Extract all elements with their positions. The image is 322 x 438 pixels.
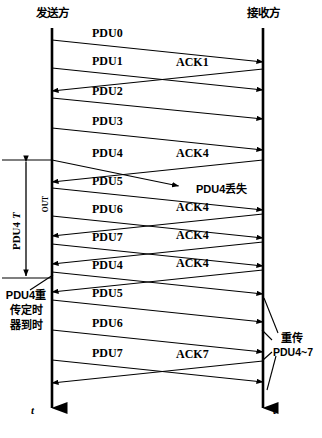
arrow-ack1: [52, 69, 263, 91]
retrans-timer-line-1: PDU4重: [1, 288, 51, 303]
timeout-label-pdu: PDU4: [10, 222, 22, 250]
retrans-timer-line-3: 器到时: [1, 318, 51, 333]
sender-label: 发送方: [36, 4, 69, 20]
leader-retransmit-3: [263, 352, 272, 360]
arrow-pdu6a: [52, 216, 263, 238]
timeout-label-subscript: OUT: [41, 196, 50, 212]
sender-time-axis-label: t: [31, 404, 34, 416]
message-label-pdu3: PDU3: [92, 114, 123, 129]
message-label-pdu7b: PDU7: [92, 346, 123, 361]
message-label-pdu6b: PDU6: [92, 316, 123, 331]
message-label-pdu2: PDU2: [92, 84, 123, 99]
message-label-ack4c: ACK4: [176, 228, 209, 243]
retransmission-timer-label: PDU4重 传定时 器到时: [1, 288, 51, 333]
message-label-pdu5b: PDU5: [92, 286, 123, 301]
leader-retransmit-1: [264, 298, 278, 333]
arrow-pdu2: [52, 98, 263, 119]
protocol-timing-diagram: 发送方 接收方 PDU0PDU1ACK1PDU2PDU3PDU4ACK4PDU5…: [0, 0, 322, 438]
message-label-ack4b: ACK4: [176, 200, 209, 215]
timeout-label-t: T: [10, 212, 22, 219]
arrow-ack4c: [52, 242, 263, 264]
arrow-pdu7a: [52, 244, 263, 266]
message-label-ack1: ACK1: [176, 55, 209, 70]
message-label-pdu1: PDU1: [92, 54, 123, 69]
message-label-pdu4a: PDU4: [92, 146, 123, 161]
arrow-pdu1: [52, 68, 263, 90]
arrow-pdu0: [52, 40, 263, 62]
message-label-ack4d: ACK4: [176, 256, 209, 271]
arrow-ack4d: [52, 270, 263, 292]
retrans-timer-line-2: 传定时: [1, 303, 51, 318]
retransmit-title-label: 重传: [281, 329, 303, 345]
message-label-pdu6a: PDU6: [92, 202, 123, 217]
leader-retransmit-4: [267, 356, 276, 390]
timeout-label: PDU4 T OUT: [0, 213, 51, 233]
receiver-time-axis-label: t: [273, 404, 276, 416]
pdu4-lost-label: PDU4丢失: [196, 180, 247, 196]
arrow-ack7: [52, 361, 263, 383]
arrow-pdu4b: [52, 272, 263, 294]
arrow-ack4b: [52, 214, 263, 236]
arrow-pdu5b: [52, 300, 263, 322]
retransmit-range-label: PDU4~7: [273, 346, 313, 358]
message-label-pdu0: PDU0: [92, 26, 123, 41]
arrow-pdu7b: [52, 360, 263, 382]
message-label-pdu7a: PDU7: [92, 230, 123, 245]
receiver-label: 接收方: [247, 4, 280, 20]
arrow-ack4a: [52, 160, 263, 182]
timeline-axes: [52, 28, 263, 408]
arrow-pdu6b: [52, 330, 263, 352]
message-label-ack4a: ACK4: [176, 146, 209, 161]
message-label-ack7: ACK7: [176, 347, 209, 362]
arrow-pdu3: [52, 128, 263, 150]
message-label-pdu4b: PDU4: [92, 258, 123, 273]
message-label-pdu5a: PDU5: [92, 174, 123, 189]
message-arrows: [52, 40, 263, 383]
